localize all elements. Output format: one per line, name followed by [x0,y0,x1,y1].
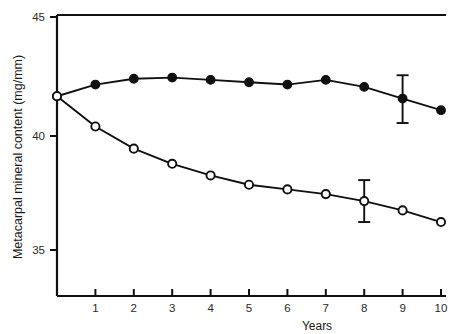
chart-container: 45 40 35 1 2 3 4 5 6 7 8 9 10 [0,0,458,334]
data-point-filled [283,80,292,89]
data-point-open [399,206,407,214]
y-tick-label-40: 40 [32,130,45,142]
data-point-open [360,197,368,205]
data-point-filled [360,83,369,92]
data-point-filled [245,78,254,87]
x-tick-label-6: 6 [284,302,290,314]
data-point-open [53,92,61,100]
data-point-filled [168,73,177,82]
line-chart: 45 40 35 1 2 3 4 5 6 7 8 9 10 [0,0,458,334]
x-tick-label-4: 4 [207,302,214,314]
data-point-open [245,181,253,189]
x-tick-label-9: 9 [399,302,405,314]
y-tick-label-45: 45 [32,11,45,23]
data-point-filled [91,80,100,89]
data-point-filled [130,74,139,83]
data-point-filled [322,76,331,85]
y-tick-label-35: 35 [32,244,45,256]
data-point-filled [398,94,407,103]
x-tick-label-10: 10 [435,302,448,314]
chart-background [0,0,458,334]
x-axis-title: Years [302,319,332,333]
x-tick-label-8: 8 [361,302,367,314]
x-tick-label-7: 7 [323,302,329,314]
data-point-open [168,160,176,168]
data-point-open [437,218,445,226]
data-point-open [322,190,330,198]
data-point-open [283,185,291,193]
data-point-filled [437,106,446,115]
x-tick-label-1: 1 [92,302,98,314]
x-tick-label-5: 5 [246,302,252,314]
x-tick-label-3: 3 [169,302,175,314]
data-point-open [130,145,138,153]
y-axis-title: Metacarpal mineral content (mg/mm) [11,55,25,259]
x-tick-label-2: 2 [131,302,137,314]
data-point-filled [206,76,215,85]
data-point-open [207,171,215,179]
data-point-open [91,122,99,130]
